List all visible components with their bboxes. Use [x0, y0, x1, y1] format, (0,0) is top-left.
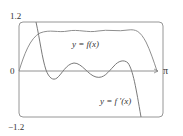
origin-label: 0	[10, 66, 15, 76]
curve-f	[19, 30, 157, 71]
annotation-f-prime: y = f ′(x)	[99, 96, 131, 106]
x-tick-pi: π	[163, 65, 168, 76]
annotation-f: y = f(x)	[71, 39, 99, 49]
y-tick-top: 1.2	[10, 11, 21, 21]
chart: 1.2 −1.2 0 π y = f(x) y = f ′(x)	[0, 0, 183, 136]
plot-frame	[19, 22, 163, 117]
y-tick-bottom: −1.2	[8, 122, 24, 132]
